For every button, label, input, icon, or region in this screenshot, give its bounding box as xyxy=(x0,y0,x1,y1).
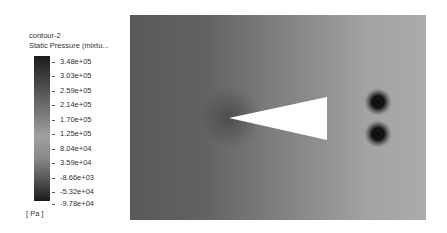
contour-overlay xyxy=(130,15,426,220)
colorbar-tick: -8.66e+03 xyxy=(52,174,94,182)
legend-quantity-name: Static Pressure (mixtu... xyxy=(29,41,109,51)
colorbar-tick: 3.48e+05 xyxy=(52,58,92,66)
low-pressure-spot-lower xyxy=(364,120,392,148)
colorbar xyxy=(34,56,50,201)
colorbar-tick: 1.25e+05 xyxy=(52,130,92,138)
legend-title: contour-2 Static Pressure (mixtu... xyxy=(29,31,109,51)
colorbar-tick: -5.32e+04 xyxy=(52,188,94,196)
colorbar-tick: -9.78e+04 xyxy=(52,200,94,208)
contour-plot-area[interactable] xyxy=(130,15,426,220)
legend-unit: [ Pa ] xyxy=(26,209,44,218)
colorbar-tick: 2.14e+05 xyxy=(52,101,92,109)
colorbar-tick: 3.59e+04 xyxy=(52,159,92,167)
colorbar-tick: 2.59e+05 xyxy=(52,87,92,95)
legend-contour-name: contour-2 xyxy=(29,31,109,41)
colorbar-tick: 3.03e+05 xyxy=(52,72,92,80)
low-pressure-spot-upper xyxy=(364,88,392,116)
colorbar-tick: 1.70e+05 xyxy=(52,116,92,124)
wedge-body xyxy=(229,97,327,140)
colorbar-tick: 8.04e+04 xyxy=(52,145,92,153)
